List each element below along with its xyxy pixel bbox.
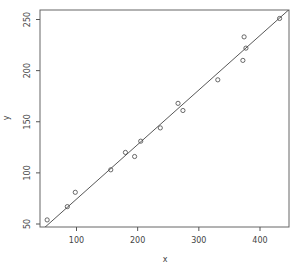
data-point (139, 139, 143, 143)
x-tick-label: 300 (191, 236, 206, 245)
y-axis-ticks: 50100150200250 (23, 12, 40, 229)
data-point (158, 126, 162, 130)
x-tick-label: 100 (69, 236, 84, 245)
x-axis-label: x (163, 255, 168, 264)
scatter-plot: 100200300400 50100150200250 x y (0, 0, 295, 271)
data-point (181, 108, 185, 112)
x-tick-label: 400 (252, 236, 267, 245)
y-tick-label: 150 (23, 114, 32, 129)
x-axis-ticks: 100200300400 (69, 227, 268, 245)
y-tick-label: 250 (23, 12, 32, 27)
data-point (176, 101, 180, 105)
data-point (133, 154, 137, 158)
y-tick-label: 100 (23, 165, 32, 180)
regression-line (43, 9, 290, 229)
fit-line-segment (43, 9, 290, 229)
y-axis-label: y (2, 115, 11, 120)
data-point (65, 205, 69, 209)
data-point (241, 58, 245, 62)
data-point (45, 218, 49, 222)
data-point (216, 78, 220, 82)
data-point (73, 190, 77, 194)
y-tick-label: 50 (23, 219, 32, 229)
x-tick-label: 200 (130, 236, 145, 245)
y-tick-label: 200 (23, 63, 32, 78)
data-point (242, 35, 246, 39)
data-point (123, 150, 127, 154)
